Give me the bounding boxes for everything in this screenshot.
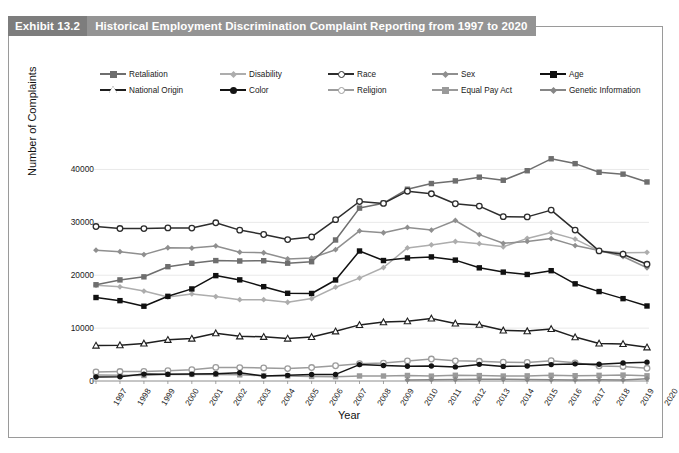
x-tick-label: 2004 xyxy=(279,387,296,407)
x-tick-label: 2013 xyxy=(495,387,512,407)
x-tick-label: 2010 xyxy=(423,387,440,407)
plot-area-wrapper: Number of Complaints 0100002000030000400… xyxy=(8,26,663,438)
x-tick-label: 2005 xyxy=(303,387,320,407)
exhibit-page: Exhibit 13.2 Historical Employment Discr… xyxy=(0,0,679,453)
x-tick-label: 2000 xyxy=(183,387,200,407)
x-tick-label: 2014 xyxy=(519,387,536,407)
x-axis-label: Year xyxy=(338,409,360,421)
x-tick-label: 1998 xyxy=(136,387,153,407)
x-tick-label: 2008 xyxy=(375,387,392,407)
x-axis-ticks: 1997199819992000200120022003200420052006… xyxy=(8,26,663,438)
x-tick-label: 2001 xyxy=(207,387,224,407)
x-tick-label: 2007 xyxy=(351,387,368,407)
x-tick-label: 2011 xyxy=(447,387,464,407)
x-tick-label: 2003 xyxy=(255,387,272,407)
x-tick-label: 2016 xyxy=(567,387,584,407)
x-tick-label: 2009 xyxy=(399,387,416,407)
x-tick-label: 2019 xyxy=(639,387,656,407)
x-tick-label: 2012 xyxy=(471,387,488,407)
x-tick-label: 1999 xyxy=(159,387,176,407)
x-tick-label: 2018 xyxy=(615,387,632,407)
x-tick-label: 2002 xyxy=(231,387,248,407)
x-tick-label: 2017 xyxy=(591,387,608,407)
x-tick-label: 2020 xyxy=(663,387,679,407)
x-tick-label: 1997 xyxy=(112,387,129,407)
x-tick-label: 2006 xyxy=(327,387,344,407)
x-tick-label: 2015 xyxy=(543,387,560,407)
